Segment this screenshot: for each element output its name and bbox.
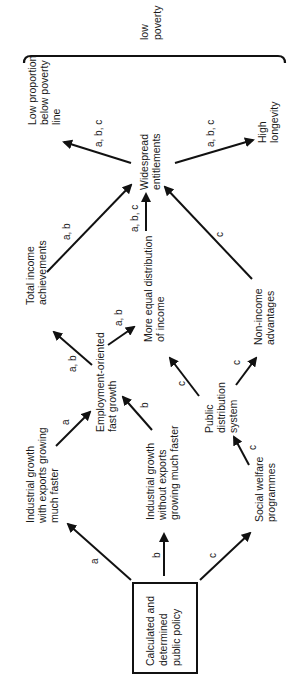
svg-text:Employment-oriented: Employment-oriented (94, 332, 106, 432)
svg-text:with exports growing: with exports growing (36, 427, 48, 524)
edge-non-income-to-entitlements (165, 187, 252, 279)
svg-text:low: low (138, 24, 150, 40)
svg-text:without exports: without exports (156, 449, 168, 521)
svg-text:Non-income: Non-income (252, 288, 264, 345)
svg-text:More equal distribution: More equal distribution (142, 236, 154, 342)
edge-label: c (231, 360, 242, 365)
svg-text:Public: Public (203, 404, 215, 433)
edge-label: c (176, 381, 187, 386)
edge-label: a, b, c (93, 120, 104, 147)
node-high-longevity: High longevity (256, 101, 280, 143)
edge-public-distribution-to-equal-distribution (170, 358, 199, 396)
edge-label: c (247, 445, 258, 450)
svg-text:Total income: Total income (24, 246, 36, 305)
node-social-welfare: Social welfare programmes (253, 456, 277, 522)
edge-label: b (139, 402, 150, 408)
svg-text:programmes: programmes (265, 463, 277, 522)
edge-label: a, b, c (129, 205, 140, 232)
svg-text:of income: of income (154, 296, 166, 342)
svg-text:Social welfare: Social welfare (253, 456, 265, 522)
edge-label: a (60, 419, 71, 425)
svg-text:advantages: advantages (264, 291, 276, 345)
svg-text:poverty: poverty (151, 5, 163, 40)
edge-without-exports-to-employment (123, 397, 152, 430)
edge-social-welfare-to-public-distribution (234, 437, 249, 465)
svg-text:longevity: longevity (268, 101, 280, 143)
svg-text:Low proportion: Low proportion (26, 55, 38, 125)
node-public-distribution: Public distribution system (203, 382, 239, 433)
node-widespread-entitlements: Widespread entitlements (138, 133, 162, 190)
edge-employment-to-equal-distribution (108, 327, 134, 345)
svg-text:fast growth: fast growth (106, 380, 118, 432)
node-employment-growth: Employment-oriented fast growth (94, 332, 118, 432)
edge-policy-to-with-exports (68, 524, 131, 580)
svg-text:Industrial growth: Industrial growth (144, 443, 156, 520)
node-low-proportion: Low proportion below poverty line (26, 55, 62, 125)
svg-text:Calculated and: Calculated and (144, 596, 156, 666)
edge-label: b (151, 552, 162, 558)
policy-diagram: low poverty Low proportion below poverty… (0, 0, 304, 699)
node-industrial-without-exports: Industrial growth without exports growin… (144, 425, 180, 521)
svg-text:entitlements: entitlements (150, 133, 162, 190)
edge-total-income-to-entitlements (47, 185, 131, 272)
node-equal-distribution: More equal distribution of income (142, 236, 166, 342)
svg-text:achievements: achievements (36, 240, 48, 305)
edge-label: c (207, 553, 218, 558)
node-total-income: Total income achievements (24, 240, 48, 305)
node-industrial-with-exports: Industrial growth with exports growing m… (24, 427, 60, 524)
edge-label: a (89, 558, 100, 564)
svg-text:below poverty: below poverty (38, 59, 50, 125)
edge-label: a, b (113, 309, 124, 326)
svg-text:line: line (50, 108, 62, 125)
node-non-income: Non-income advantages (252, 288, 276, 345)
svg-text:Widespread: Widespread (138, 134, 150, 190)
svg-text:distribution: distribution (215, 382, 227, 433)
edge-label: a, b, c (205, 120, 216, 147)
svg-text:High: High (256, 121, 268, 143)
svg-text:much faster: much faster (48, 468, 60, 523)
low-poverty-label: low poverty (138, 5, 163, 40)
svg-text:system: system (227, 399, 239, 433)
svg-text:determined: determined (157, 613, 169, 666)
svg-text:Industrial growth: Industrial growth (24, 446, 36, 523)
outcome-bracket (24, 56, 285, 63)
edge-with-exports-to-employment (56, 412, 90, 446)
edge-label: c (214, 232, 225, 237)
edge-label: a, b (67, 355, 78, 372)
svg-text:public policy: public policy (170, 608, 182, 666)
edge-label: a, b (61, 223, 72, 240)
svg-text:growing much faster: growing much faster (168, 425, 180, 520)
